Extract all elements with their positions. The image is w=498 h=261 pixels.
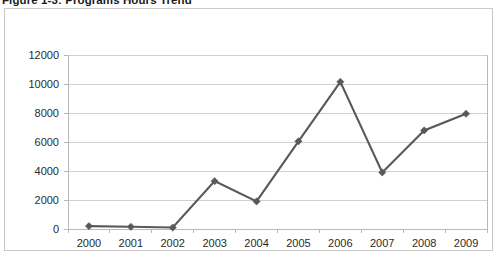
y-axis-tick-label: 10000 bbox=[28, 78, 59, 90]
data-point-markers bbox=[85, 78, 469, 231]
y-axis-tick-label: 0 bbox=[53, 223, 59, 235]
data-point-marker bbox=[462, 110, 469, 117]
x-axis-tick-label: 2009 bbox=[454, 237, 478, 249]
y-axis-tick-label: 2000 bbox=[35, 194, 59, 206]
y-axis-tick-label: 6000 bbox=[35, 136, 59, 148]
y-axis-tickmarks bbox=[64, 55, 68, 229]
gridlines bbox=[68, 55, 487, 229]
x-axis-labels: 2000200120022003200420052006200720082009 bbox=[77, 237, 479, 249]
x-axis-tick-label: 2000 bbox=[77, 237, 101, 249]
data-series-programs-hours bbox=[89, 82, 466, 228]
y-axis-tick-label: 12000 bbox=[28, 49, 59, 61]
chart-frame: 020004000600080001000012000 200020012002… bbox=[4, 8, 493, 251]
x-axis-tick-label: 2001 bbox=[119, 237, 143, 249]
figure-caption: Figure 1-3: Programs Hours Trend bbox=[2, 0, 462, 8]
x-axis-tick-label: 2006 bbox=[328, 237, 352, 249]
chart-canvas: 020004000600080001000012000 200020012002… bbox=[5, 9, 492, 250]
y-axis-labels: 020004000600080001000012000 bbox=[28, 49, 59, 235]
x-axis-tick-label: 2002 bbox=[161, 237, 185, 249]
series-line-programs-hours bbox=[89, 82, 466, 228]
x-axis-tick-label: 2008 bbox=[412, 237, 436, 249]
x-axis-tick-label: 2003 bbox=[202, 237, 226, 249]
line-chart: 020004000600080001000012000 200020012002… bbox=[5, 9, 492, 250]
y-axis-tick-label: 4000 bbox=[35, 165, 59, 177]
x-axis-tick-label: 2004 bbox=[244, 237, 268, 249]
x-axis-tick-label: 2007 bbox=[370, 237, 394, 249]
y-axis-tick-label: 8000 bbox=[35, 107, 59, 119]
x-axis-tick-label: 2005 bbox=[286, 237, 310, 249]
